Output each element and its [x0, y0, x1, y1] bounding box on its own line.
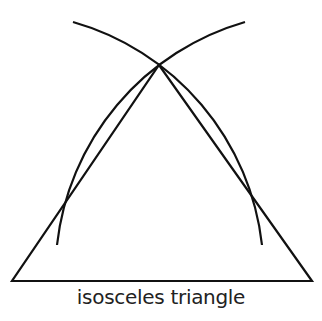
isosceles-triangle — [12, 65, 312, 281]
construction-drawing — [0, 0, 322, 321]
diagram-caption: isosceles triangle — [0, 285, 322, 309]
compass-arc-left-center — [73, 22, 262, 245]
diagram-canvas: isosceles triangle — [0, 0, 322, 321]
compass-arc-right-center — [57, 22, 245, 245]
